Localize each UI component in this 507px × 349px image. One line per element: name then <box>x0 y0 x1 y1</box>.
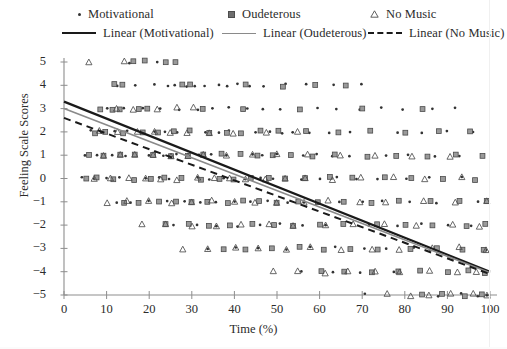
data-point <box>316 107 319 110</box>
data-point <box>295 268 301 274</box>
data-point <box>86 59 92 65</box>
data-point <box>408 247 413 252</box>
data-point <box>430 223 435 228</box>
data-point <box>162 154 165 157</box>
data-point <box>394 154 399 159</box>
data-point <box>422 176 428 182</box>
data-point <box>166 200 169 203</box>
data-point <box>148 176 153 181</box>
data-point <box>257 199 262 204</box>
data-point <box>81 176 84 179</box>
data-point <box>390 174 396 180</box>
data-point <box>98 107 103 112</box>
x-tick-label: 50 <box>262 303 292 316</box>
x-tick-label: 40 <box>219 303 249 316</box>
data-point <box>413 222 419 228</box>
y-tick-label: −3 <box>24 241 46 254</box>
data-point <box>334 246 337 249</box>
data-point <box>332 84 335 87</box>
data-point <box>426 268 432 274</box>
data-point <box>221 247 226 252</box>
data-point <box>263 129 269 135</box>
data-point <box>124 155 127 158</box>
data-point <box>145 106 150 111</box>
data-point <box>134 84 137 87</box>
data-point <box>454 106 457 109</box>
data-point <box>376 178 379 181</box>
data-point <box>281 84 286 89</box>
data-point <box>249 200 252 203</box>
data-point <box>279 108 282 111</box>
data-point <box>403 222 408 227</box>
data-point <box>167 85 170 88</box>
data-point <box>431 108 434 111</box>
data-point <box>301 224 304 227</box>
data-point <box>246 107 249 110</box>
data-point <box>319 178 322 181</box>
data-point <box>226 85 229 88</box>
data-point <box>468 129 473 134</box>
data-point <box>383 199 389 205</box>
x-tick-label: 20 <box>134 303 164 316</box>
data-point <box>396 198 401 203</box>
data-point <box>180 82 185 87</box>
data-point <box>319 269 324 274</box>
data-point <box>350 175 355 180</box>
data-point <box>258 128 263 133</box>
data-point <box>174 199 179 204</box>
data-point <box>131 59 136 64</box>
data-point <box>335 108 338 111</box>
data-point <box>304 129 309 134</box>
data-point <box>230 130 236 136</box>
data-point <box>218 131 221 134</box>
data-point <box>227 223 232 228</box>
data-point <box>179 176 184 181</box>
data-point <box>418 268 423 273</box>
data-point <box>457 199 462 204</box>
data-point <box>294 129 300 135</box>
data-point <box>199 201 202 204</box>
data-point <box>241 107 246 112</box>
data-point <box>224 130 229 135</box>
data-point <box>225 201 230 206</box>
data-point <box>315 153 318 156</box>
data-point <box>440 291 445 296</box>
data-point <box>385 154 388 157</box>
data-point <box>305 83 308 86</box>
data-point <box>105 177 108 180</box>
data-point <box>207 223 212 228</box>
data-point <box>435 202 438 205</box>
data-point <box>348 247 353 252</box>
data-point <box>343 83 348 88</box>
data-point <box>288 153 293 158</box>
data-point <box>393 271 396 274</box>
data-point <box>480 153 485 158</box>
data-point <box>168 178 171 181</box>
data-point <box>254 131 257 134</box>
data-point <box>203 85 206 88</box>
data-point <box>126 175 132 181</box>
data-point <box>325 197 331 203</box>
data-point <box>382 175 387 180</box>
data-point <box>238 221 244 227</box>
data-point <box>466 268 471 273</box>
data-point <box>106 107 109 110</box>
data-point <box>239 131 244 136</box>
data-point <box>172 224 175 227</box>
data-point <box>188 82 193 87</box>
data-point <box>286 201 289 204</box>
data-point <box>120 82 125 87</box>
x-tick-label: 80 <box>390 303 420 316</box>
data-point <box>84 176 89 181</box>
data-point <box>381 221 387 227</box>
data-point <box>136 200 141 205</box>
data-point <box>87 153 92 158</box>
data-point <box>328 132 331 135</box>
data-point <box>447 224 450 227</box>
data-point <box>421 198 427 204</box>
data-point <box>360 83 363 86</box>
data-point <box>396 225 399 228</box>
data-point <box>405 177 408 180</box>
data-point <box>335 176 338 179</box>
data-point <box>164 130 167 133</box>
